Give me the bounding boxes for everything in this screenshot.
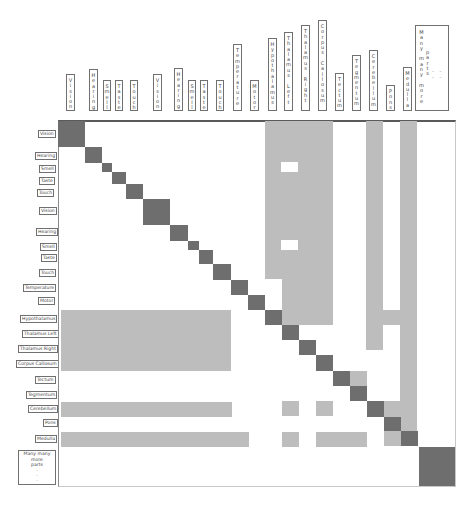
- column-label-char: m: [371, 102, 376, 107]
- row-label: Smell: [39, 165, 56, 173]
- diagonal-block: [265, 310, 282, 325]
- column-label-char: t: [305, 98, 307, 103]
- row-label: Pons: [43, 419, 58, 427]
- column-label: Cerebellum: [369, 50, 378, 111]
- row-label: Motor: [38, 297, 55, 305]
- column-label: Smell: [188, 80, 196, 111]
- column-label-char: n: [156, 104, 159, 109]
- diagonal-block: [231, 280, 248, 295]
- column-label: Taste: [115, 80, 123, 111]
- diagonal-block: [282, 325, 299, 340]
- column-label: Pons: [386, 85, 395, 111]
- column-label-char: l: [106, 105, 107, 110]
- diagonal-block: [213, 264, 231, 280]
- diagonal-block: [199, 250, 213, 264]
- empty-cell: [281, 240, 298, 250]
- column-label: Thalamus Right: [301, 25, 310, 111]
- column-label: Smell: [103, 80, 111, 111]
- light-dependency-region: [383, 310, 400, 325]
- diagonal-block: [248, 295, 265, 310]
- row-label: Corpus Callosum: [16, 360, 59, 368]
- column-label-char: l: [191, 105, 192, 110]
- column-label-char: e: [117, 105, 120, 110]
- light-dependency-region: [316, 432, 367, 447]
- column-label: Corpus Callosum: [318, 20, 327, 111]
- column-label-char: a: [406, 103, 409, 108]
- column-label-char: e: [236, 101, 239, 106]
- dependency-matrix-diagram: VisionHearingSmellTasteTouchVisionHearin…: [0, 0, 473, 508]
- row-label: Vision: [39, 207, 57, 215]
- column-label: Touch: [130, 80, 138, 111]
- column-label: Vision: [66, 74, 75, 111]
- column-label-char: s: [389, 105, 392, 110]
- column-label-char: n: [69, 104, 72, 109]
- light-dependency-region: [282, 432, 299, 447]
- row-label: Smell: [40, 243, 57, 251]
- column-label-char: e: [202, 105, 205, 110]
- column-label-many-more-parts: Many many moreparts- - - -: [415, 25, 449, 111]
- row-label: Thalamus Left: [22, 330, 59, 338]
- light-dependency-region: [384, 401, 400, 417]
- diagonal-block: [170, 225, 188, 241]
- column-label-char: r: [253, 105, 255, 110]
- column-label: Hearing: [174, 68, 183, 111]
- diagonal-block: [384, 417, 401, 431]
- ellipsis-dot: ·: [19, 478, 55, 483]
- row-label: Touch: [37, 189, 54, 197]
- diagonal-block: [85, 147, 102, 163]
- column-label-char: s: [271, 100, 274, 105]
- diagonal-block: [419, 447, 455, 486]
- light-dependency-region: [282, 401, 299, 416]
- row-label: Tegmentum: [26, 391, 57, 399]
- light-dependency-region: [366, 121, 383, 350]
- diagonal-block: [316, 355, 333, 371]
- column-label: Tegmentum: [352, 55, 361, 111]
- light-dependency-region: [61, 432, 249, 447]
- column-label-char: g: [177, 104, 180, 109]
- column-label: Medulla: [403, 67, 412, 111]
- column-label: Thalamus Left: [284, 32, 293, 111]
- row-label: Hypothalamus: [20, 315, 57, 323]
- column-label-char: t: [288, 100, 290, 105]
- diagonal-block: [401, 431, 418, 446]
- row-label: Hearing: [36, 228, 58, 236]
- light-dependency-region: [400, 121, 417, 431]
- diagonal-block: [112, 172, 126, 184]
- column-label: Hearing: [89, 69, 98, 111]
- diagonal-block: [58, 121, 85, 147]
- column-label: Vision: [153, 74, 162, 111]
- row-label: Vision: [38, 130, 56, 138]
- light-dependency-region: [61, 310, 231, 371]
- row-label: Hearing: [35, 152, 57, 160]
- light-dependency-region: [384, 431, 401, 446]
- diagonal-block: [188, 241, 199, 250]
- light-dependency-region: [350, 371, 367, 386]
- many-label-line1: Many many more: [419, 30, 424, 104]
- column-label-char: m: [337, 103, 342, 108]
- row-label: Touch: [39, 269, 56, 277]
- light-dependency-region: [316, 401, 333, 416]
- column-label: Taste: [200, 80, 208, 111]
- column-label-char: h: [132, 105, 135, 110]
- ellipsis-dots: - - - -: [432, 68, 448, 80]
- row-label: Taste: [39, 177, 55, 185]
- column-label-char: m: [320, 98, 325, 103]
- diagonal-block: [102, 163, 112, 172]
- light-dependency-region: [282, 121, 333, 325]
- row-label: Taste: [41, 254, 57, 262]
- row-label-many-more-parts: Many many moreparts···: [18, 450, 56, 485]
- row-label: Medulla: [35, 435, 57, 443]
- diagonal-block: [367, 401, 384, 417]
- column-label: Tectum: [335, 73, 344, 111]
- many-row-line1: Many many more: [19, 451, 55, 462]
- column-label-char: m: [354, 101, 359, 106]
- diagonal-block: [299, 340, 316, 355]
- row-label: Thalamus Right: [18, 345, 58, 353]
- column-label: Temperature: [233, 44, 242, 111]
- diagonal-block: [333, 371, 350, 386]
- column-label: Motor: [250, 80, 259, 111]
- diagonal-block: [126, 184, 143, 199]
- row-label: Tectum: [35, 376, 56, 384]
- light-dependency-region: [61, 402, 232, 417]
- diagonal-block: [143, 199, 170, 225]
